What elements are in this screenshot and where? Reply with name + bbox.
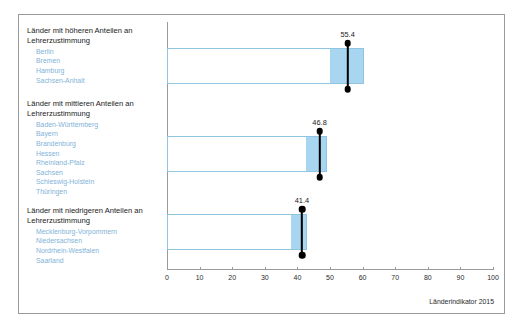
x-tick-mark <box>297 267 298 270</box>
member-list-low: Mecklenburg-Vorpommern Niedersachsen Nor… <box>27 227 167 265</box>
x-tick-label: 80 <box>424 274 432 281</box>
group-title-middle: Länder mit mittleren Anteilen an Lehrerz… <box>27 99 167 120</box>
category-group-middle: Länder mit mittleren Anteilen an Lehrerz… <box>27 99 167 197</box>
bar-value-label: 41.4 <box>295 196 309 205</box>
bar-row: 41.4 <box>167 214 493 250</box>
source-note: Länderindikator 2015 <box>429 298 494 305</box>
category-group-high: Länder mit höheren Anteilen an Lehrerzus… <box>27 26 167 85</box>
chart-figure: Länder mit höheren Anteilen an Lehrerzus… <box>0 0 524 329</box>
x-tick-label: 40 <box>293 274 301 281</box>
list-item: Rheinland-Pfalz <box>27 158 167 168</box>
category-group-low: Länder mit niedrigeren Anteilen an Lehre… <box>27 206 167 265</box>
group-title-low: Länder mit niedrigeren Anteilen an Lehre… <box>27 206 167 227</box>
member-list-high: Berlin Bremen Hamburg Sachsen-Anhalt <box>27 47 167 85</box>
x-tick-label: 60 <box>359 274 367 281</box>
bar-value-label: 55.4 <box>340 30 354 39</box>
list-item: Thüringen <box>27 187 167 197</box>
x-tick-label: 50 <box>326 274 334 281</box>
x-tick-label: 70 <box>391 274 399 281</box>
value-marker-line <box>318 131 320 177</box>
list-item: Brandenburg <box>27 139 167 149</box>
bar-row: 55.4 <box>167 48 493 84</box>
x-tick-mark <box>232 267 233 270</box>
bar-value-label: 46.8 <box>312 118 326 127</box>
x-tick-label: 0 <box>165 274 169 281</box>
value-marker-cap-top <box>316 128 323 135</box>
list-item: Niedersachsen <box>27 236 167 246</box>
bar-outline <box>167 136 327 172</box>
category-label-column: Länder mit höheren Anteilen an Lehrerzus… <box>27 26 163 276</box>
list-item: Saarland <box>27 256 167 266</box>
x-tick-mark <box>493 267 494 270</box>
list-item: Berlin <box>27 47 167 57</box>
x-tick-label: 10 <box>196 274 204 281</box>
list-item: Bremen <box>27 56 167 66</box>
list-item: Sachsen <box>27 168 167 178</box>
member-list-middle: Baden-Württemberg Bayern Brandenburg Hes… <box>27 120 167 197</box>
value-marker-cap-top <box>299 206 306 213</box>
x-tick-mark <box>167 267 168 270</box>
value-marker-cap-bottom <box>299 252 306 259</box>
list-item: Nordrhein-Westfalen <box>27 246 167 256</box>
list-item: Baden-Württemberg <box>27 120 167 130</box>
list-item: Sachsen-Anhalt <box>27 76 167 86</box>
value-marker-cap-bottom <box>344 86 351 93</box>
group-title-high: Länder mit höheren Anteilen an Lehrerzus… <box>27 26 167 47</box>
list-item: Bayern <box>27 129 167 139</box>
value-marker-line <box>346 43 348 89</box>
value-marker-line <box>301 209 303 255</box>
x-tick-mark <box>363 267 364 270</box>
bar-outline <box>167 214 307 250</box>
x-tick-mark <box>330 267 331 270</box>
x-tick-mark <box>200 267 201 270</box>
x-tick-mark <box>428 267 429 270</box>
list-item: Hamburg <box>27 66 167 76</box>
list-item: Schleswig-Holstein <box>27 177 167 187</box>
plot-area: 0102030405060708090100 55.446.841.4 <box>167 22 493 270</box>
x-tick-mark <box>395 267 396 270</box>
x-tick-label: 20 <box>228 274 236 281</box>
bar-row: 46.8 <box>167 136 493 172</box>
x-tick-mark <box>265 267 266 270</box>
list-item: Hessen <box>27 149 167 159</box>
x-tick-label: 90 <box>456 274 464 281</box>
bar-outline <box>167 48 364 84</box>
x-tick-label: 30 <box>261 274 269 281</box>
x-tick-mark <box>460 267 461 270</box>
x-tick-label: 100 <box>487 274 499 281</box>
value-marker-cap-bottom <box>316 174 323 181</box>
list-item: Mecklenburg-Vorpommern <box>27 227 167 237</box>
value-marker-cap-top <box>344 40 351 47</box>
